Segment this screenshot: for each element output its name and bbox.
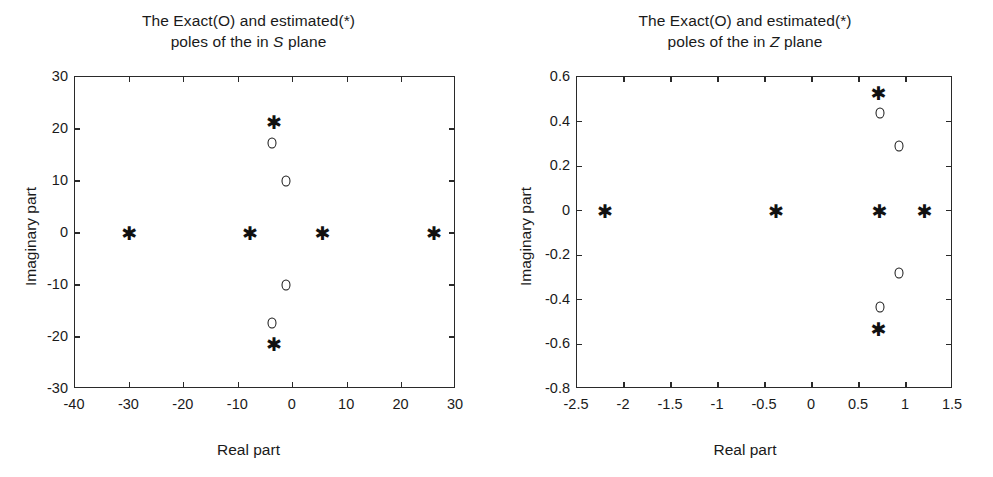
- x-tick-label: 0.5: [848, 396, 868, 412]
- x-tick-label: -10: [227, 396, 248, 412]
- pole-plot-figure: The Exact(O) and estimated(*) poles of t…: [0, 0, 993, 477]
- x-tick: [623, 77, 624, 82]
- y-tick-label: -0.8: [518, 380, 570, 396]
- x-tick: [717, 77, 718, 82]
- x-tick-label: -40: [64, 396, 85, 412]
- y-tick-label: 0.6: [518, 68, 570, 84]
- y-tick-label: -0.4: [518, 291, 570, 307]
- chart-title-z-line2-pre: poles of the in: [668, 33, 770, 50]
- x-tick: [764, 382, 765, 387]
- y-tick-label: 0.4: [518, 113, 570, 129]
- x-axis-title-z: Real part: [497, 441, 993, 459]
- x-tick: [764, 77, 765, 82]
- chart-title-s-line2-post: plane: [284, 33, 327, 50]
- exact-pole-marker: [268, 137, 277, 148]
- y-tick-label: -30: [16, 380, 68, 396]
- y-tick: [75, 180, 80, 181]
- estimated-pole-marker: ✱: [242, 229, 258, 237]
- chart-title-s-plane: The Exact(O) and estimated(*) poles of t…: [0, 10, 497, 52]
- chart-title-z-line1: The Exact(O) and estimated(*): [638, 12, 851, 29]
- y-tick-label: 20: [16, 120, 68, 136]
- x-tick: [811, 382, 812, 387]
- y-tick: [75, 128, 80, 129]
- y-tick-label: -10: [16, 276, 68, 292]
- y-tick-label: 0.2: [518, 157, 570, 173]
- x-tick: [129, 382, 130, 387]
- x-tick: [183, 77, 184, 82]
- x-tick-label: 10: [338, 396, 354, 412]
- x-tick: [905, 77, 906, 82]
- panel-s-plane: The Exact(O) and estimated(*) poles of t…: [0, 0, 497, 477]
- y-tick: [946, 210, 951, 211]
- x-tick: [811, 77, 812, 82]
- x-tick-label: -1: [711, 396, 724, 412]
- y-tick-label: 0: [518, 202, 570, 218]
- x-tick: [238, 77, 239, 82]
- estimated-pole-marker: ✱: [426, 229, 442, 237]
- x-tick: [670, 77, 671, 82]
- y-tick: [577, 210, 582, 211]
- y-tick: [946, 344, 951, 345]
- y-tick-label: 30: [16, 68, 68, 84]
- y-tick: [577, 166, 582, 167]
- axes-s-plane: ✱✱✱✱✱✱: [74, 76, 455, 388]
- y-tick: [75, 284, 80, 285]
- x-tick: [858, 77, 859, 82]
- chart-title-z-plane-symbol: Z: [770, 33, 780, 50]
- x-tick-label: -20: [172, 396, 193, 412]
- y-tick: [577, 121, 582, 122]
- x-tick: [238, 382, 239, 387]
- exact-pole-marker: [875, 107, 884, 118]
- exact-pole-marker: [268, 318, 277, 329]
- chart-title-s-line2-pre: poles of the in: [171, 33, 273, 50]
- x-tick: [858, 382, 859, 387]
- y-tick: [946, 121, 951, 122]
- chart-title-z-line2: poles of the in Z plane: [497, 31, 993, 52]
- panel-z-plane: The Exact(O) and estimated(*) poles of t…: [497, 0, 993, 477]
- x-tick: [670, 382, 671, 387]
- y-tick: [449, 128, 454, 129]
- estimated-pole-marker: ✱: [872, 207, 888, 215]
- y-tick-label: -0.2: [518, 246, 570, 262]
- y-tick: [946, 299, 951, 300]
- y-tick-label: -20: [16, 328, 68, 344]
- estimated-pole-marker: ✱: [266, 118, 282, 126]
- y-tick: [577, 344, 582, 345]
- x-tick: [347, 77, 348, 82]
- x-tick: [292, 382, 293, 387]
- y-tick: [946, 166, 951, 167]
- x-tick-label: 0: [807, 396, 815, 412]
- x-tick-label: 20: [392, 396, 408, 412]
- y-tick: [577, 255, 582, 256]
- x-tick: [292, 77, 293, 82]
- chart-title-z-plane: The Exact(O) and estimated(*) poles of t…: [497, 10, 993, 52]
- x-tick: [401, 77, 402, 82]
- x-tick-label: 30: [447, 396, 463, 412]
- x-axis-title-s: Real part: [0, 441, 497, 459]
- chart-title-s-line2: poles of the in S plane: [0, 31, 497, 52]
- y-tick-label: 10: [16, 172, 68, 188]
- x-tick: [717, 382, 718, 387]
- x-tick-label: -2: [617, 396, 630, 412]
- x-tick-label: 1: [901, 396, 909, 412]
- y-tick: [577, 299, 582, 300]
- x-tick: [623, 382, 624, 387]
- estimated-pole-marker: ✱: [121, 229, 137, 237]
- chart-title-s-plane-symbol: S: [273, 33, 283, 50]
- chart-title-z-line2-post: plane: [780, 33, 823, 50]
- x-tick: [401, 382, 402, 387]
- x-tick: [905, 382, 906, 387]
- estimated-pole-marker: ✱: [871, 325, 887, 333]
- x-tick: [183, 382, 184, 387]
- x-tick-label: -30: [118, 396, 139, 412]
- y-tick: [449, 336, 454, 337]
- exact-pole-marker: [895, 268, 904, 279]
- estimated-pole-marker: ✱: [315, 229, 331, 237]
- exact-pole-marker: [282, 280, 291, 291]
- y-tick: [75, 232, 80, 233]
- x-tick-label: 0: [288, 396, 296, 412]
- y-tick: [449, 232, 454, 233]
- y-tick: [449, 284, 454, 285]
- estimated-pole-marker: ✱: [266, 340, 282, 348]
- exact-pole-marker: [895, 141, 904, 152]
